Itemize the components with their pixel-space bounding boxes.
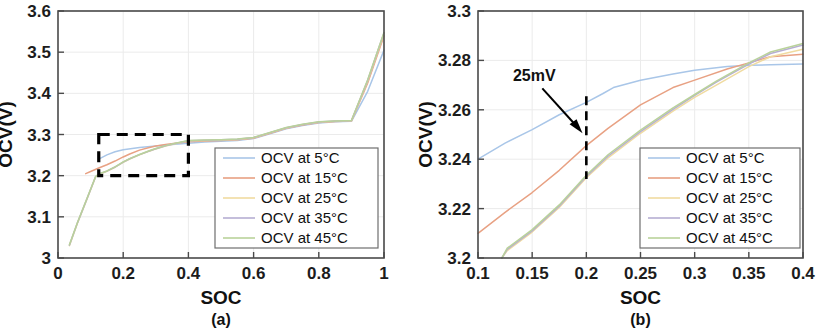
- y-axis-title: OCV(V): [0, 101, 16, 168]
- y-tick-label: 3.6: [27, 2, 51, 21]
- series-line-ocv-at-5-c: [99, 50, 384, 159]
- x-tick-label: 0.4: [177, 264, 201, 283]
- legend-label-3: OCV at 35°C: [686, 209, 773, 226]
- x-tick-label: 1: [379, 264, 388, 283]
- y-tick-label: 3.22: [438, 200, 471, 219]
- panel-b: 25mV0.10.150.20.250.30.350.43.23.223.243…: [412, 0, 824, 329]
- legend-label-2: OCV at 25°C: [686, 189, 773, 206]
- legend-label-4: OCV at 45°C: [261, 229, 348, 246]
- legend-label-0: OCV at 5°C: [686, 149, 765, 166]
- y-axis-title: OCV(V): [415, 101, 436, 168]
- y-tick-label: 3.28: [438, 51, 471, 70]
- y-tick-label: 3.4: [27, 84, 51, 103]
- y-tick-label: 3.5: [27, 43, 51, 62]
- x-tick-label: 0.8: [307, 264, 331, 283]
- figure-ocv-vs-soc: 00.20.40.60.8133.13.23.33.43.53.6SOCOCV(…: [0, 0, 825, 329]
- panel-a: 00.20.40.60.8133.13.23.33.43.53.6SOCOCV(…: [0, 0, 412, 329]
- y-tick-label: 3.2: [447, 249, 471, 268]
- legend-label-0: OCV at 5°C: [261, 149, 340, 166]
- x-tick-label: 0.4: [791, 264, 815, 283]
- annotation-label-25mv: 25mV: [513, 67, 556, 84]
- y-tick-label: 3.1: [27, 208, 51, 227]
- x-tick-label: 0.2: [575, 264, 599, 283]
- x-tick-label: 0.2: [111, 264, 135, 283]
- x-tick-label: 0.6: [242, 264, 266, 283]
- legend-label-1: OCV at 15°C: [686, 169, 773, 186]
- panel-b-canvas: 25mV0.10.150.20.250.30.350.43.23.223.243…: [412, 0, 825, 329]
- x-tick-label: 0.35: [732, 264, 765, 283]
- panel-a-canvas: 00.20.40.60.8133.13.23.33.43.53.6SOCOCV(…: [0, 0, 412, 329]
- y-tick-label: 3.3: [447, 2, 471, 21]
- legend-label-2: OCV at 25°C: [261, 189, 348, 206]
- legend-label-3: OCV at 35°C: [261, 209, 348, 226]
- x-tick-label: 0.15: [516, 264, 549, 283]
- y-tick-label: 3.3: [27, 126, 51, 145]
- panel-caption: (a): [211, 311, 231, 328]
- panel-caption: (b): [630, 311, 650, 328]
- legend-label-4: OCV at 45°C: [686, 229, 773, 246]
- x-tick-label: 0: [53, 264, 62, 283]
- legend-label-1: OCV at 15°C: [261, 169, 348, 186]
- x-axis-title: SOC: [620, 287, 661, 308]
- y-tick-label: 3.2: [27, 167, 51, 186]
- y-tick-label: 3: [42, 249, 51, 268]
- x-tick-label: 0.3: [683, 264, 707, 283]
- y-tick-label: 3.26: [438, 101, 471, 120]
- x-tick-label: 0.25: [624, 264, 657, 283]
- x-axis-title: SOC: [200, 287, 241, 308]
- y-tick-label: 3.24: [438, 150, 472, 169]
